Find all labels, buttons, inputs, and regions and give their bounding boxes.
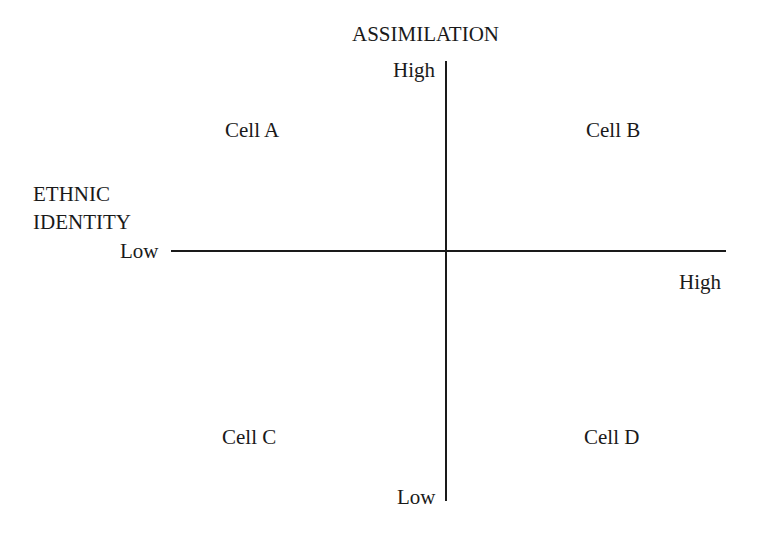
- assimilation-low-label: Low: [397, 487, 436, 508]
- assimilation-high-label: High: [393, 60, 435, 81]
- ethnic-identity-low-label: Low: [120, 241, 159, 262]
- cell-a-label: Cell A: [225, 120, 279, 141]
- ethnic-identity-title-line2: IDENTITY: [33, 208, 131, 236]
- assimilation-axis-line: [445, 61, 447, 501]
- cell-d-label: Cell D: [584, 427, 639, 448]
- cell-c-label: Cell C: [222, 427, 276, 448]
- assimilation-axis-title: ASSIMILATION: [352, 24, 499, 45]
- ethnic-identity-high-label: High: [679, 272, 721, 293]
- ethnic-identity-title-line1: ETHNIC: [33, 180, 131, 208]
- ethnic-identity-axis-title: ETHNIC IDENTITY: [33, 180, 131, 236]
- ethnic-identity-axis-line: [171, 250, 726, 252]
- cell-b-label: Cell B: [586, 120, 640, 141]
